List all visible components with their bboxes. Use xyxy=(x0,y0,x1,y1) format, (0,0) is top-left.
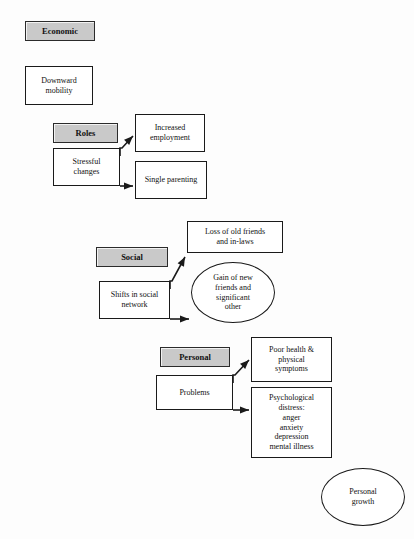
node-economic[interactable]: Economic xyxy=(25,21,95,41)
node-label-shifts-in-social-network: Shifts in social network xyxy=(111,290,159,310)
node-stressful-changes[interactable]: Stressful changes xyxy=(53,148,120,186)
arrowhead-icon xyxy=(124,182,133,189)
connector-shifts-to-gain-of-friends xyxy=(170,315,189,322)
node-label-poor-health: Poor health & physical symptoms xyxy=(269,345,314,374)
arrowhead-icon xyxy=(180,315,189,322)
node-label-roles: Roles xyxy=(76,128,96,138)
node-poor-health[interactable]: Poor health & physical symptoms xyxy=(251,337,332,382)
node-label-personal: Personal xyxy=(179,352,211,362)
node-personal[interactable]: Personal xyxy=(160,347,230,367)
node-gain-of-new-friends[interactable]: Gain of new friends and significant othe… xyxy=(191,262,275,323)
node-roles[interactable]: Roles xyxy=(53,123,118,143)
node-downward-mobility[interactable]: Downward mobility xyxy=(25,66,93,105)
connector-problems-to-psychological-distress xyxy=(233,406,249,413)
arrowhead-icon xyxy=(240,357,251,368)
node-psychological-distress[interactable]: Psychological distress: anger anxiety de… xyxy=(251,387,332,458)
connector-line xyxy=(170,257,185,289)
diagram-canvas: EconomicDownward mobilityRolesStressful … xyxy=(0,0,414,539)
connector-stressful-to-single-parenting xyxy=(120,182,133,189)
arrowhead-icon xyxy=(124,133,135,144)
node-label-social: Social xyxy=(121,252,143,262)
node-label-single-parenting: Single parenting xyxy=(145,175,198,185)
node-increased-employment[interactable]: Increased employment xyxy=(135,114,205,152)
node-label-gain-of-new-friends: Gain of new friends and significant othe… xyxy=(213,273,253,312)
node-label-economic: Economic xyxy=(42,26,78,36)
node-label-increased-employment: Increased employment xyxy=(150,123,190,143)
node-loss-of-old-friends[interactable]: Loss of old friends and in-laws xyxy=(187,221,283,253)
connector-shifts-to-loss-of-friends xyxy=(170,255,188,289)
arrowhead-icon xyxy=(240,406,249,413)
node-personal-growth[interactable]: Personal growth xyxy=(321,468,405,526)
node-label-psychological-distress: Psychological distress: anger anxiety de… xyxy=(269,393,314,452)
node-social[interactable]: Social xyxy=(96,247,168,267)
connector-stressful-to-employment xyxy=(120,133,136,156)
node-single-parenting[interactable]: Single parenting xyxy=(135,161,207,199)
node-label-stressful-changes: Stressful changes xyxy=(73,157,101,177)
node-label-personal-growth: Personal growth xyxy=(349,487,377,507)
connector-line xyxy=(120,136,133,156)
arrowhead-icon xyxy=(178,255,189,266)
node-shifts-in-social-network[interactable]: Shifts in social network xyxy=(99,281,170,319)
node-label-problems: Problems xyxy=(179,388,209,398)
connector-problems-to-poor-health xyxy=(233,357,252,383)
node-label-downward-mobility: Downward mobility xyxy=(41,76,77,96)
node-problems[interactable]: Problems xyxy=(156,375,233,410)
connector-line xyxy=(233,360,249,383)
node-label-loss-of-old-friends: Loss of old friends and in-laws xyxy=(205,227,265,247)
